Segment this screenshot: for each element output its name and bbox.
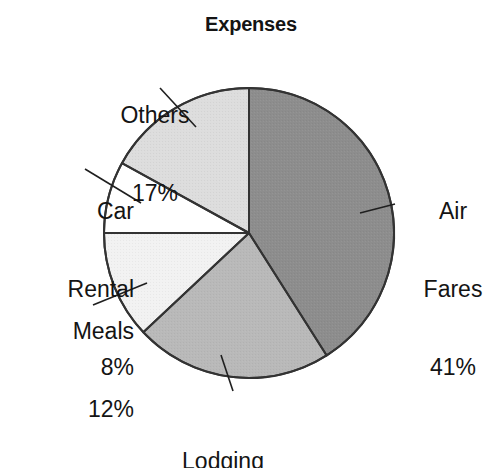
pie-label-meals: Meals 12% xyxy=(16,266,134,468)
pie-label-air-fares-percent: 41% xyxy=(410,354,496,380)
pie-label-air-fares: Air Fares 41% xyxy=(410,146,496,432)
pie-label-lodging: Lodging 22% xyxy=(148,396,298,468)
pie-label-others-category: Others xyxy=(96,102,214,128)
pie-chart-figure: Expenses Others 17% Car Rental 8% xyxy=(0,0,502,468)
pie-label-lodging-category: Lodging xyxy=(148,448,298,468)
pie-label-car-rental-category-line1: Car xyxy=(16,198,134,224)
pie-label-meals-percent: 12% xyxy=(16,396,134,422)
pie-label-air-fares-category-line2: Fares xyxy=(410,276,496,302)
pie-label-meals-category: Meals xyxy=(16,318,134,344)
pie-label-air-fares-category-line1: Air xyxy=(410,198,496,224)
